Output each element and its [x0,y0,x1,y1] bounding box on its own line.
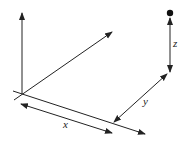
coordinate-diagram [0,0,186,143]
y-label: y [143,96,148,107]
x-label: x [63,119,68,130]
point-marker [167,10,173,16]
y-dimension-arrow [114,74,167,122]
depth-axis [14,32,112,100]
z-label: z [173,38,177,49]
